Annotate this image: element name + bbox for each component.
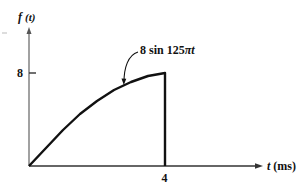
chart: f (t) 8 t (ms) 4 8 sin 125πt [0,0,299,184]
x-axis: t (ms) 4 [29,159,296,184]
annotation-arrow [124,52,138,82]
y-tick-label-8: 8 [17,66,23,80]
y-axis: f (t) 8 [17,10,36,166]
x-axis-arrow-icon [255,163,263,168]
y-axis-arrow-icon [27,27,32,34]
sine-curve [29,73,165,166]
x-axis-label: t (ms) [267,159,296,173]
x-tick-label-4: 4 [162,171,168,184]
y-axis-label: f (t) [18,10,35,24]
annotation-label: 8 sin 125πt [140,43,195,57]
